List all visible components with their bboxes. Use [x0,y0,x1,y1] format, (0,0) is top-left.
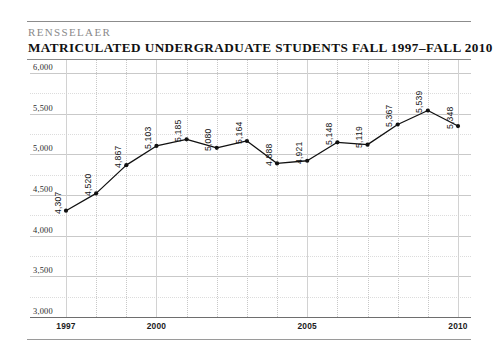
data-point-label: 5,367 [384,105,394,128]
y-axis-tick-label: 4,500 [33,185,53,194]
data-point-label: 4,307 [53,191,63,214]
y-axis-tick-label: 6,000 [33,63,53,72]
data-point-label: 4,888 [264,144,274,167]
gridline-vertical-minor [428,60,429,317]
data-point-label: 4,520 [83,174,93,197]
gridline-vertical-minor [337,60,338,317]
data-point-label: 4,867 [113,146,123,169]
data-point-label: 5,348 [445,107,455,130]
y-axis-tick-label: 3,000 [33,307,53,316]
data-point-label: 5,148 [324,123,334,146]
gridline-vertical-major [307,60,308,317]
y-axis-tick-label: 5,500 [33,104,53,113]
gridline-vertical-minor [187,60,188,317]
x-axis-tick-label: 2000 [147,321,166,331]
gridline-vertical-major [66,60,67,317]
y-axis-tick-label: 4,000 [33,226,53,235]
gridline-vertical-major [458,60,459,317]
footer-rule [27,339,471,340]
gridline-vertical-minor [398,60,399,317]
data-point-label: 5,164 [234,121,244,144]
x-axis-tick-label: 2010 [448,321,467,331]
data-point-label: 5,080 [203,128,213,151]
gridline-vertical-minor [247,60,248,317]
gridline-vertical-minor [217,60,218,317]
gridline-vertical-minor [368,60,369,317]
y-axis-tick-label: 3,500 [33,266,53,275]
y-axis-tick-label: 5,000 [33,144,53,153]
x-axis-tick-label: 2005 [298,321,317,331]
gridline-vertical-minor [96,60,97,317]
chart-page: RENSSELAER MATRICULATED UNDERGRADUATE ST… [0,0,499,354]
gridline-vertical-minor [126,60,127,317]
data-point-label: 4,921 [294,141,304,164]
data-point-label: 5,539 [414,91,424,114]
data-point-label: 5,103 [143,126,153,149]
gridline-vertical-major [156,60,157,317]
gridline-vertical-minor [277,60,278,317]
line-chart: 6,0005,5005,0004,5004,0003,5003,000 1997… [0,0,499,354]
data-point-label: 5,119 [354,126,364,148]
x-axis-line [30,317,471,318]
x-axis-tick-label: 1997 [56,321,75,331]
data-point-label: 5,185 [173,120,183,143]
